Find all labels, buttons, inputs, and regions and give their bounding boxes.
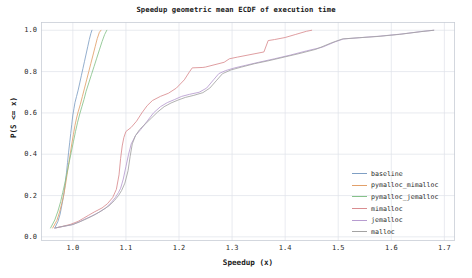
legend-swatch-icon: [352, 173, 367, 174]
x-tick-label: 1.5: [318, 244, 358, 252]
y-tick-label: 0.0: [3, 233, 37, 241]
series-line-baseline: [55, 30, 92, 228]
legend-item-label: pymalloc_mimalloc: [371, 181, 439, 189]
x-axis-tick-labels: 1.01.11.21.31.41.51.61.7: [41, 244, 455, 256]
legend-swatch-icon: [352, 208, 367, 209]
y-tick-label: 0.8: [3, 68, 37, 76]
legend-item-label: baseline: [371, 170, 403, 178]
legend-swatch-icon: [352, 231, 367, 232]
x-tick-label: 1.2: [159, 244, 199, 252]
legend-swatch-icon: [352, 220, 367, 221]
legend-item-malloc[interactable]: malloc: [352, 226, 464, 238]
chart-legend: baselinepymalloc_mimallocpymalloc_jemall…: [352, 168, 464, 238]
legend-swatch-icon: [352, 185, 367, 186]
chart-title: Speedup geometric mean ECDF of execution…: [0, 5, 472, 14]
y-axis-tick-labels: 0.00.20.40.60.81.0: [0, 22, 37, 241]
legend-item-pymalloc_jemalloc[interactable]: pymalloc_jemalloc: [352, 191, 464, 203]
y-tick-label: 0.4: [3, 150, 37, 158]
legend-swatch-icon: [352, 196, 367, 197]
legend-item-mimalloc[interactable]: mimalloc: [352, 203, 464, 215]
x-tick-label: 1.6: [371, 244, 411, 252]
legend-item-label: malloc: [371, 228, 395, 236]
x-tick-label: 1.7: [424, 244, 464, 252]
y-tick-label: 0.6: [3, 109, 37, 117]
legend-item-jemalloc[interactable]: jemalloc: [352, 214, 464, 226]
legend-item-baseline[interactable]: baseline: [352, 168, 464, 180]
series-line-pymalloc_jemalloc: [51, 30, 107, 228]
x-tick-label: 1.3: [212, 244, 252, 252]
x-tick-label: 1.0: [53, 244, 93, 252]
legend-item-label: jemalloc: [371, 216, 403, 224]
legend-item-pymalloc_mimalloc[interactable]: pymalloc_mimalloc: [352, 180, 464, 192]
y-tick-label: 0.2: [3, 192, 37, 200]
x-axis-label: Speedup (x): [41, 258, 455, 267]
x-tick-label: 1.1: [106, 244, 146, 252]
x-tick-label: 1.4: [265, 244, 305, 252]
series-line-pymalloc_mimalloc: [53, 30, 101, 228]
y-tick-label: 1.0: [3, 26, 37, 34]
chart-figure: Speedup geometric mean ECDF of execution…: [0, 0, 472, 278]
legend-item-label: pymalloc_jemalloc: [371, 193, 439, 201]
legend-item-label: mimalloc: [371, 205, 403, 213]
